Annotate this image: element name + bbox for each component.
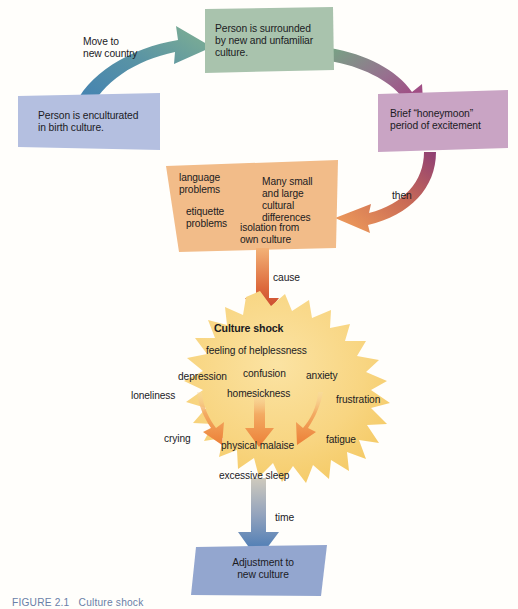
cause-arrow-label: cause <box>273 272 300 284</box>
symptom-helplessness: feeling of helplessness <box>206 345 307 357</box>
problems-item-language: language problems <box>179 172 220 196</box>
symptom-frustration: frustration <box>336 394 380 406</box>
culture-shock-starburst <box>184 291 390 483</box>
symptom-anxiety: anxiety <box>306 370 338 382</box>
symptom-confusion: confusion <box>243 368 286 380</box>
symptom-fatigue: fatigue <box>326 434 356 446</box>
honeymoon-label: Brief “honeymoon” period of excitement <box>390 108 481 132</box>
birth-culture-label: Person is enculturated in birth culture. <box>38 110 138 134</box>
symptom-depression: depression <box>178 371 227 383</box>
adjustment-label: Adjustment to new culture <box>218 557 308 581</box>
problems-item-etiquette: etiquette problems <box>186 206 227 230</box>
then-arrow <box>335 152 436 233</box>
diagram-graphics <box>0 0 518 609</box>
move-arrow-label: Move to new country <box>83 36 137 60</box>
time-arrow-label: time <box>275 512 294 524</box>
figure-canvas: Person is enculturated in birth culture.… <box>0 0 518 609</box>
symptom-crying: crying <box>164 433 191 445</box>
symptom-excessive-sleep: excessive sleep <box>219 470 289 482</box>
then-arrow-label: then <box>392 190 412 202</box>
problems-item-cultural-differences: Many small and large cultural difference… <box>262 176 313 224</box>
figure-caption: FIGURE 2.1 Culture shock <box>12 597 143 608</box>
symptom-loneliness: loneliness <box>131 390 175 402</box>
culture-shock-title: Culture shock <box>214 322 283 335</box>
symptom-physical-malaise: physical malaise <box>221 440 294 452</box>
new-culture-label: Person is surrounded by new and unfamili… <box>215 23 313 59</box>
problems-item-isolation: isolation from own culture <box>240 222 299 246</box>
symptom-homesickness: homesickness <box>227 388 290 400</box>
